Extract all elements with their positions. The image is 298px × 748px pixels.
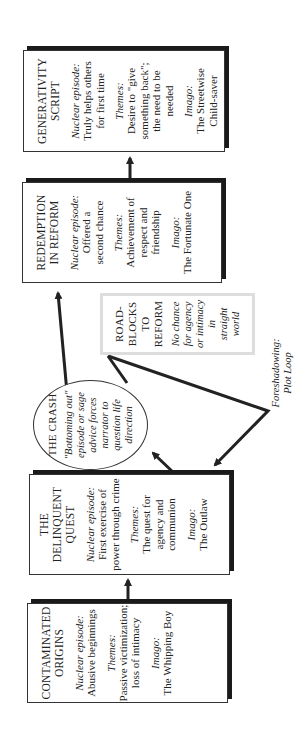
node-contaminated-origins: CONTAMINATED ORIGINS Nuclear episode: Ab… [27,603,228,703]
node-title: REDEMPTION [35,194,48,270]
roadblock-text: No chance [170,302,182,347]
imago-label: Imago: [149,637,161,669]
node-redemption-in-reform: REDEMPTION IN REFORM Nuclear episode: Of… [22,182,222,283]
crash-text: episode or sage [75,392,87,458]
episode-text: power through crime [109,478,122,570]
themes-text: loss of intimacy [129,618,142,688]
roadblock-text: for agency [182,302,194,347]
episode-label: Nuclear episode: [69,63,81,138]
themes-label: Themes: [105,634,117,671]
node-title: ORIGINS [53,629,66,677]
node-title: GENERATIVITY [36,58,49,144]
themes-text: needed [163,85,176,116]
imago-label: Imago: [169,217,181,249]
node-title: TO [139,317,152,332]
roadblock-text: in [206,320,218,328]
crash-text: direction [123,406,135,444]
themes-text: Passive victimization; [117,605,130,702]
roadblock-text: or intimacy [194,300,206,348]
imago-text: The Streetwise [194,68,207,134]
episode-label: Nuclear episode: [68,195,80,270]
themes-text: The quest for [140,495,153,554]
imago-text: Child-saver [207,75,220,126]
node-title: QUEST [64,505,77,543]
imago-text: The Outlaw [197,498,210,550]
node-title: THE [38,513,51,536]
themes-text: agency and [153,500,166,550]
node-title: CONTAMINATED [40,607,53,700]
themes-text: friendship [149,210,162,255]
episode-label: Nuclear episode: [84,487,96,562]
narrative-diagram: CONTAMINATED ORIGINS Nuclear episode: Ab… [0,0,298,748]
themes-label: Themes: [128,506,140,543]
node-title: SCRIPT [49,81,62,121]
themes-text: something back"; [138,63,151,140]
node-title: REFORM [152,301,165,347]
themes-label: Themes: [112,214,124,251]
node-title: DELINQUENT [51,487,64,562]
crash-text: narrator to [99,402,111,449]
node-delinquent-quest: THE DELINQUENT QUEST Nuclear episode: Fi… [29,474,230,575]
imago-text: The Fortunate One [181,191,194,274]
crash-text: advice forces [87,397,99,452]
episode-text: Truly helps others [81,61,94,141]
themes-text: communion [165,498,178,551]
node-the-crash: THE CRASH "Bottoming out" episode or sag… [33,380,148,470]
episode-label: Nuclear episode: [73,615,85,690]
themes-text: Desire to "give [125,68,138,134]
imago-label: Imago: [185,509,197,541]
crash-text: question life [111,399,123,451]
annotation-label: Foreshadowing: [270,328,282,418]
episode-text: Abusive beginnings [85,609,98,697]
themes-label: Themes: [113,82,125,119]
themes-text: respect and [137,208,150,258]
node-title: BLOCKS [126,302,139,347]
annotation-text: Plot Loop [282,328,294,418]
roadblock-text: straight [218,308,230,341]
episode-text: Offered a [80,212,93,254]
arrow-quest-to-crash [153,453,175,474]
episode-text: second chance [93,201,106,265]
themes-text: the need to be [150,70,163,131]
roadblock-text: world [230,312,242,337]
node-roadblocks-to-reform: ROAD- BLOCKS TO REFORM No chance for age… [100,293,255,355]
imago-label: Imago: [182,85,194,117]
foreshadowing-annotation: Foreshadowing: Plot Loop [270,328,294,418]
node-title: IN REFORM [48,200,61,264]
node-title: ROAD- [113,306,126,342]
crash-text: "Bottoming out" [63,391,75,460]
node-generativity-script: GENERATIVITY SCRIPT Nuclear episode: Tru… [23,50,225,152]
imago-text: The Whipping Boy [161,611,174,696]
episode-text: First exercise of [96,489,109,560]
episode-text: for first time [94,73,107,129]
themes-text: Achievement of [124,197,137,268]
node-title: THE CRASH [46,394,59,457]
